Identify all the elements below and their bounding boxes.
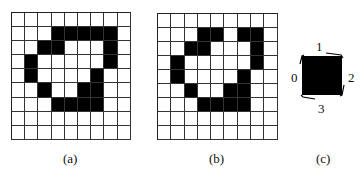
direction-label-bottom: 3 (318, 102, 325, 115)
clockwise-arrows-icon (0, 0, 362, 174)
direction-label-top: 1 (316, 40, 323, 53)
direction-label-right: 2 (348, 71, 355, 84)
caption-c: (c) (316, 152, 330, 165)
direction-label-left: 0 (291, 71, 298, 84)
